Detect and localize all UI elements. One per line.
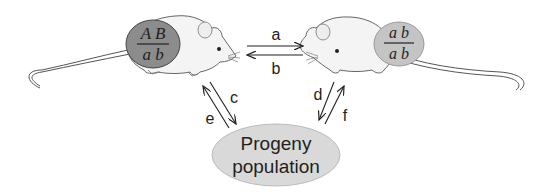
left-genotype-bottom: a b [142, 45, 163, 64]
arrow-pair-df: d f [314, 82, 348, 124]
mating-diagram: A B a b a b a b a b c e d f [0, 0, 547, 192]
label-a: a [272, 26, 281, 43]
right-mouse: a b a b [300, 17, 524, 90]
progeny-population: Progeny population [212, 124, 340, 186]
right-mouse-ear [316, 24, 330, 40]
progeny-label-line1: Progeny [241, 133, 312, 154]
left-genotype-top: A B [140, 24, 166, 43]
right-mouse-eye [335, 49, 339, 53]
left-mouse-ear [198, 22, 212, 38]
left-mouse-eye [217, 47, 221, 51]
label-e: e [206, 110, 215, 127]
label-f: f [343, 107, 348, 124]
label-c: c [230, 89, 238, 106]
right-genotype-top: a b [389, 24, 409, 41]
right-genotype-bottom: a b [389, 45, 409, 62]
label-d: d [314, 86, 323, 103]
left-mouse: A B a b [29, 16, 240, 88]
arrow-pair-ab: a b [247, 26, 303, 77]
progeny-label-line2: population [232, 156, 320, 177]
label-b: b [272, 60, 281, 77]
arrow-pair-ce: c e [203, 82, 238, 128]
arrow-f [325, 86, 344, 124]
